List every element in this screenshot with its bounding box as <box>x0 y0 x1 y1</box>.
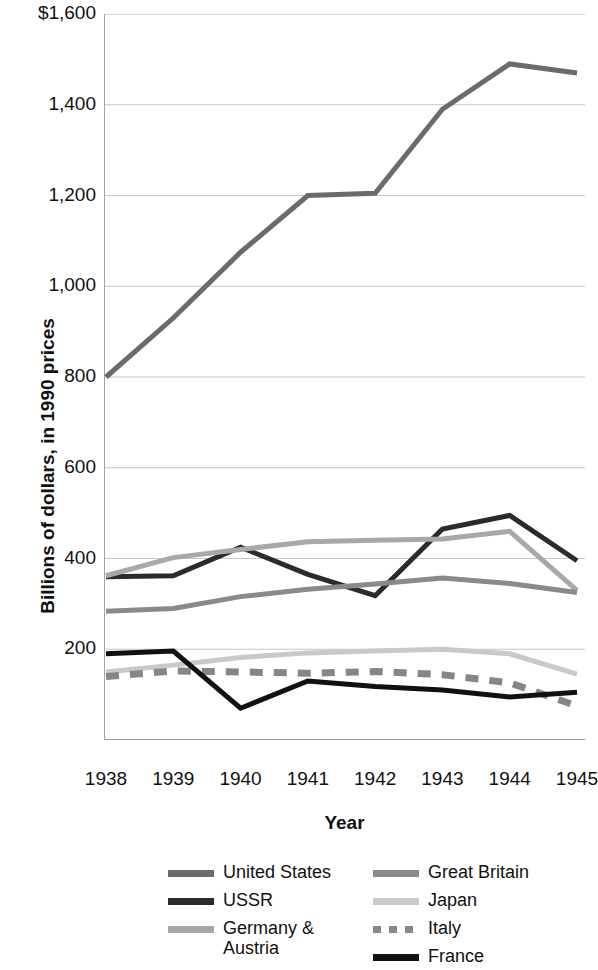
legend-swatch <box>373 870 419 877</box>
legend-item[interactable]: France <box>373 946 568 970</box>
plot-area <box>104 14 585 740</box>
legend-swatch <box>168 898 214 905</box>
legend-item[interactable]: Germany &Austria <box>168 918 348 958</box>
y-tick-label: 600 <box>0 456 96 478</box>
x-axis-title: Year <box>104 812 585 834</box>
series-line-united-states <box>106 64 577 377</box>
legend-item[interactable]: USSR <box>168 890 348 914</box>
y-tick-label: $1,600 <box>0 2 96 24</box>
y-axis-tick-labels: $1,6001,4001,2001,000800600400200 <box>0 0 100 970</box>
chart-legend: United StatesUSSRGermany &Austria Great … <box>168 862 568 966</box>
legend-swatch <box>373 926 419 933</box>
x-tick-label: 1943 <box>421 768 463 790</box>
series-line-france <box>106 651 577 708</box>
y-tick-label: 1,400 <box>0 93 96 115</box>
x-tick-label: 1944 <box>489 768 531 790</box>
legend-label: USSR <box>223 890 273 910</box>
x-tick-label: 1942 <box>354 768 396 790</box>
legend-label: Germany &Austria <box>223 918 314 958</box>
y-tick-label: 1,200 <box>0 184 96 206</box>
y-tick-label: 1,000 <box>0 274 96 296</box>
legend-label: Great Britain <box>428 862 529 882</box>
legend-item[interactable]: Japan <box>373 890 568 914</box>
x-axis-tick-labels: 19381939194019411942194319441945 <box>104 768 585 796</box>
legend-swatch <box>168 870 214 877</box>
legend-label-line2: Austria <box>223 938 314 958</box>
y-tick-label: 800 <box>0 365 96 387</box>
legend-swatch <box>168 926 214 933</box>
legend-label: Italy <box>428 918 461 938</box>
legend-item[interactable]: United States <box>168 862 348 886</box>
x-tick-label: 1945 <box>556 768 598 790</box>
legend-label: France <box>428 946 484 966</box>
series-line-italy <box>106 671 577 706</box>
legend-label: Japan <box>428 890 477 910</box>
x-tick-label: 1939 <box>152 768 194 790</box>
legend-swatch <box>373 954 419 961</box>
series-lines <box>106 64 577 708</box>
x-tick-label: 1938 <box>85 768 127 790</box>
gridlines <box>104 14 585 649</box>
legend-label: United States <box>223 862 331 882</box>
y-tick-label: 400 <box>0 547 96 569</box>
x-tick-label: 1941 <box>287 768 329 790</box>
legend-column-left: United StatesUSSRGermany &Austria <box>168 862 348 962</box>
legend-item[interactable]: Great Britain <box>373 862 568 886</box>
y-tick-label: 200 <box>0 637 96 659</box>
legend-column-right: Great BritainJapanItalyFrance <box>373 862 568 970</box>
chart-canvas <box>104 14 585 740</box>
x-tick-label: 1940 <box>219 768 261 790</box>
legend-swatch <box>373 898 419 905</box>
legend-item[interactable]: Italy <box>373 918 568 942</box>
